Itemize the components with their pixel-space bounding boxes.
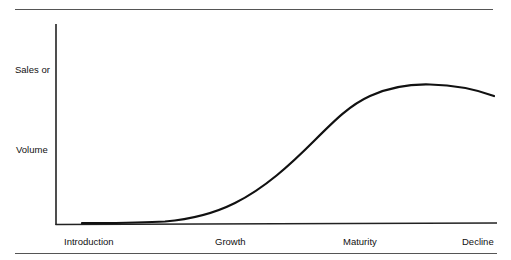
sales-curve [82,84,494,223]
stage-label-introduction: Introduction [64,236,114,247]
stage-label-decline: Decline [462,236,494,247]
y-axis-label-volume: Volume [16,144,48,155]
product-life-cycle-chart [0,0,511,260]
stage-label-growth: Growth [215,236,246,247]
stage-label-maturity: Maturity [343,236,377,247]
y-axis-label-sales: Sales or [15,64,50,75]
